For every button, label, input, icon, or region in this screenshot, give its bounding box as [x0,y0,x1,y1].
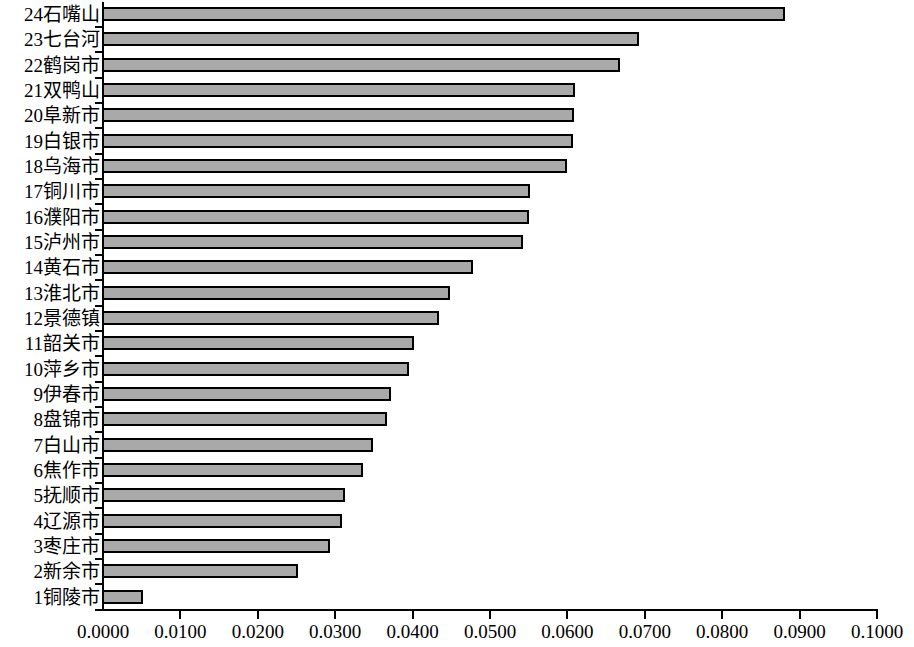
bar-category-label: 3枣庄市 [0,534,100,559]
bar-row: 2新余市 [0,559,914,584]
bar-row: 17铜川市 [0,179,914,204]
bar-row: 21双鸭山 [0,78,914,103]
bar-category-label: 13淮北市 [0,281,100,306]
x-axis-tick [644,611,646,619]
bar [103,539,330,553]
horizontal-bar-chart: 24石嘴山23七台河22鹤岗市21双鸭山20阜新市19白银市18乌海市17铜川市… [0,0,914,647]
bar [103,590,143,604]
bar [103,260,473,274]
bar-category-label: 20阜新市 [0,103,100,128]
bar [103,412,387,426]
bar-row: 20阜新市 [0,103,914,128]
bar-row: 3枣庄市 [0,534,914,559]
bar-category-label: 10萍乡市 [0,357,100,382]
bar [103,159,567,173]
bar [103,362,409,376]
bar [103,286,450,300]
bar-row: 18乌海市 [0,154,914,179]
bar-category-label: 21双鸭山 [0,78,100,103]
bar-category-label: 15泸州市 [0,230,100,255]
bar-category-label: 11韶关市 [0,331,100,356]
bar [103,184,530,198]
bar [103,32,639,46]
x-axis-tick [799,611,801,619]
bar [103,564,298,578]
x-axis-tick [566,611,568,619]
bar-category-label: 2新余市 [0,559,100,584]
bar-category-label: 4辽源市 [0,509,100,534]
bars-layer: 24石嘴山23七台河22鹤岗市21双鸭山20阜新市19白银市18乌海市17铜川市… [0,0,914,647]
bar [103,134,573,148]
bar-category-label: 17铜川市 [0,179,100,204]
bar-row: 9伊春市 [0,382,914,407]
bar [103,83,575,97]
bar-category-label: 14黄石市 [0,255,100,280]
bar-category-label: 8盘锦市 [0,407,100,432]
bar-category-label: 1铜陵市 [0,585,100,610]
bar [103,387,391,401]
bar-row: 8盘锦市 [0,407,914,432]
x-axis-tick-label: 0.1000 [817,620,914,644]
bar-category-label: 18乌海市 [0,154,100,179]
bar [103,311,439,325]
bar-row: 22鹤岗市 [0,53,914,78]
bar-row: 16濮阳市 [0,205,914,230]
x-axis-tick [179,611,181,619]
bar [103,514,342,528]
bar [103,463,363,477]
x-axis-tick [334,611,336,619]
bar-category-label: 16濮阳市 [0,205,100,230]
bar-category-label: 12景德镇 [0,306,100,331]
bar-row: 1铜陵市 [0,585,914,610]
bar [103,108,574,122]
bar-category-label: 7白山市 [0,433,100,458]
bar-category-label: 22鹤岗市 [0,53,100,78]
bar-row: 15泸州市 [0,230,914,255]
bar-category-label: 9伊春市 [0,382,100,407]
bar-row: 11韶关市 [0,331,914,356]
x-axis-tick [489,611,491,619]
bar-row: 19白银市 [0,129,914,154]
x-axis-tick [876,611,878,619]
bar [103,488,345,502]
y-axis-line [102,2,104,611]
bar-category-label: 5抚顺市 [0,483,100,508]
bar [103,58,620,72]
bar-category-label: 6焦作市 [0,458,100,483]
bar-row: 23七台河 [0,27,914,52]
x-axis-tick [412,611,414,619]
bar-category-label: 23七台河 [0,27,100,52]
bar-category-label: 19白银市 [0,129,100,154]
bar [103,336,414,350]
bar-row: 5抚顺市 [0,483,914,508]
bar-category-label: 24石嘴山 [0,2,100,27]
bar-row: 14黄石市 [0,255,914,280]
bar-row: 24石嘴山 [0,2,914,27]
x-axis-tick [257,611,259,619]
bar-row: 4辽源市 [0,509,914,534]
bar [103,438,373,452]
bar-row: 6焦作市 [0,458,914,483]
bar [103,7,785,21]
bar-row: 12景德镇 [0,306,914,331]
x-axis-tick [721,611,723,619]
bar-row: 13淮北市 [0,281,914,306]
bar-row: 7白山市 [0,433,914,458]
bar [103,210,529,224]
bar [103,235,523,249]
bar-row: 10萍乡市 [0,357,914,382]
